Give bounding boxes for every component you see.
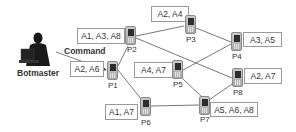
node-label-p7: P7 <box>200 115 210 124</box>
phone-icon-p1[interactable] <box>107 61 118 80</box>
node-label-p8: P8 <box>233 88 243 97</box>
edge-p3-p4 <box>196 28 231 42</box>
command-label: Command <box>64 46 106 56</box>
node-label-p1: P1 <box>108 81 118 90</box>
node-label-p3: P3 <box>186 35 196 44</box>
phone-icon-p8[interactable] <box>232 68 243 87</box>
node-label-p2: P2 <box>127 45 137 54</box>
phone-icon-p2[interactable] <box>125 26 136 45</box>
phone-icon-p5[interactable] <box>172 60 183 79</box>
app-list-p2: A1, A3, A8 <box>77 28 125 44</box>
node-label-p4: P4 <box>232 52 242 61</box>
app-list-p6: A1, A7 <box>105 104 138 120</box>
app-list-p1: A2, A6 <box>70 61 104 77</box>
app-list-p7: A5, A6, A8 <box>210 102 258 117</box>
phone-icon-p7[interactable] <box>199 96 210 115</box>
botnet-diagram: Botmaster Command A1, A3, A8 P2 A2, A6 P… <box>0 0 296 132</box>
botmaster-icon <box>16 32 56 68</box>
phone-icon-p3[interactable] <box>185 15 196 34</box>
phone-icon-p6[interactable] <box>140 97 151 116</box>
app-list-p5: A4, A7 <box>134 62 173 78</box>
app-list-p8: A2, A7 <box>244 68 282 84</box>
edge-p7-p8 <box>209 84 232 100</box>
edge-p6-p7 <box>151 105 199 106</box>
phone-icon-p4[interactable] <box>231 32 242 51</box>
edge-p2-p3 <box>136 26 184 36</box>
app-list-p3: A2, A4 <box>151 6 189 22</box>
botmaster-label: Botmaster <box>17 68 59 78</box>
edge-p4-p5 <box>183 44 231 70</box>
node-label-p5: P5 <box>173 80 183 89</box>
node-label-p6: P6 <box>141 118 151 127</box>
app-list-p4: A3, A5 <box>243 32 282 47</box>
edge-p5-p7 <box>182 78 202 97</box>
